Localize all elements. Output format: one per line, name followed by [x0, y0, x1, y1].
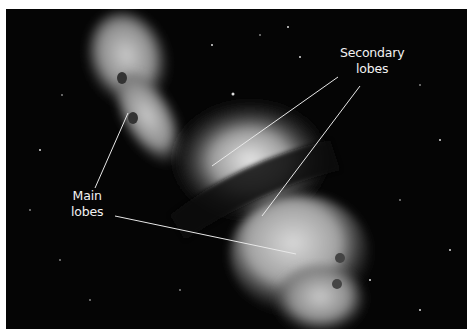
- label-line: lobes: [340, 61, 404, 77]
- label-line: Main: [71, 188, 103, 204]
- main-lobes-label: Main lobes: [71, 188, 103, 220]
- secondary-lobes-label: Secondary lobes: [340, 45, 404, 77]
- label-line: lobes: [71, 204, 103, 220]
- label-line: Secondary: [340, 45, 404, 61]
